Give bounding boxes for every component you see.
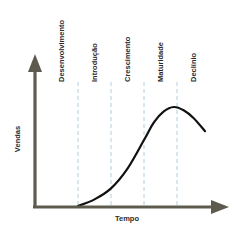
stage-label: Declínio xyxy=(189,52,198,82)
stage-labels: DesenvolvimentoIntroduçãoCrescimentoMatu… xyxy=(57,19,198,82)
y-axis-arrowhead-icon xyxy=(28,54,42,72)
x-axis-arrowhead-icon xyxy=(211,200,229,214)
stage-dividers xyxy=(78,82,177,205)
sales-curve xyxy=(78,107,205,206)
stage-label: Introdução xyxy=(90,43,99,82)
x-axis-label: Tempo xyxy=(115,214,139,223)
y-axis-label: Vendas xyxy=(13,126,22,152)
product-life-cycle-chart: DesenvolvimentoIntroduçãoCrescimentoMatu… xyxy=(0,0,241,233)
stage-label: Desenvolvimento xyxy=(57,19,66,82)
stage-label: Maturidade xyxy=(156,42,165,82)
stage-label: Crescimento xyxy=(123,36,132,82)
